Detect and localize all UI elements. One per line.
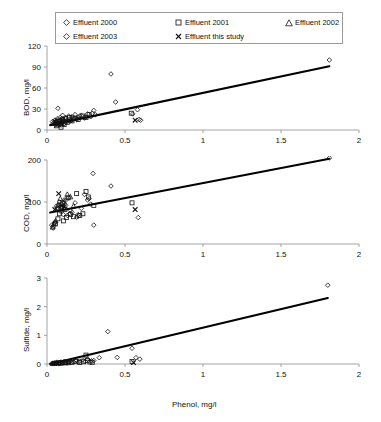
square-icon — [172, 19, 185, 26]
legend-label: Effluent 2001 — [185, 19, 229, 27]
svg-text:2: 2 — [37, 303, 42, 312]
svg-text:60: 60 — [32, 84, 41, 93]
svg-text:3: 3 — [37, 274, 42, 283]
svg-text:2: 2 — [357, 370, 362, 379]
diamond-icon — [60, 33, 73, 40]
scatter-plot-cod: 010020000.511.52 — [0, 156, 381, 268]
svg-text:0: 0 — [45, 136, 50, 145]
legend-entry-effluent-2000: Effluent 2000 — [60, 15, 172, 30]
legend: Effluent 2000 Effluent 2001 Effluent 200… — [55, 12, 343, 44]
svg-text:100: 100 — [28, 198, 42, 207]
svg-text:0: 0 — [45, 250, 50, 259]
svg-text:1: 1 — [201, 136, 206, 145]
legend-label: Effluent 2002 — [295, 19, 339, 27]
scatter-plot-sulfide: 012300.511.52 — [0, 272, 381, 388]
diamond-icon — [60, 19, 73, 26]
svg-text:1: 1 — [201, 250, 206, 259]
svg-text:90: 90 — [32, 63, 41, 72]
svg-text:1.5: 1.5 — [275, 136, 287, 145]
svg-text:0: 0 — [37, 240, 42, 249]
svg-text:0.5: 0.5 — [119, 250, 131, 259]
svg-text:0.5: 0.5 — [119, 136, 131, 145]
legend-entry-effluent-2001: Effluent 2001 — [172, 15, 282, 30]
figure-root: Effluent 2000 Effluent 2001 Effluent 200… — [0, 0, 381, 422]
svg-text:2: 2 — [357, 136, 362, 145]
scatter-plot-bod: 030609012000.511.52 — [0, 42, 381, 154]
x-axis-label-phenol: Phenol, mg/l — [172, 400, 216, 409]
svg-text:120: 120 — [28, 42, 42, 51]
legend-entry-effluent-2002: Effluent 2002 — [282, 15, 342, 30]
svg-text:1.5: 1.5 — [275, 250, 287, 259]
svg-text:1.5: 1.5 — [275, 370, 287, 379]
svg-text:0: 0 — [37, 126, 42, 135]
x-cross-icon — [172, 33, 185, 40]
svg-text:200: 200 — [28, 156, 42, 165]
legend-label: Effluent 2000 — [73, 19, 117, 27]
legend-label: Effluent this study — [185, 33, 244, 41]
triangle-icon — [282, 19, 295, 27]
svg-text:1: 1 — [37, 331, 42, 340]
svg-text:0.5: 0.5 — [119, 370, 131, 379]
svg-text:0: 0 — [45, 370, 50, 379]
svg-text:30: 30 — [32, 105, 41, 114]
legend-row-1: Effluent 2000 Effluent 2001 Effluent 200… — [56, 15, 342, 30]
svg-text:1: 1 — [201, 370, 206, 379]
svg-text:0: 0 — [37, 360, 42, 369]
svg-text:2: 2 — [357, 250, 362, 259]
legend-label: Effluent 2003 — [73, 33, 117, 41]
